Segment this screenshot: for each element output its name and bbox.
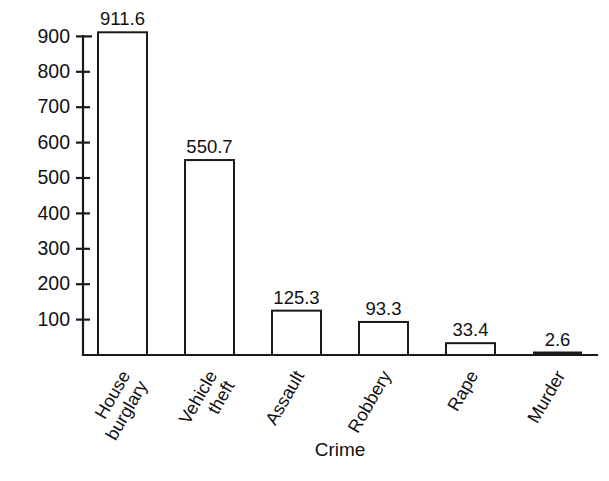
y-axis-tick-label: 100: [37, 308, 70, 330]
chart-canvas: 100200300400500600700800900 911.6550.712…: [0, 0, 609, 481]
x-axis-category-label-line: Murder: [523, 367, 569, 426]
y-axis-tick-label: 300: [37, 237, 70, 259]
bar: [272, 311, 321, 355]
x-axis-title: Crime: [315, 439, 366, 460]
bar-value-label: 33.4: [452, 319, 488, 340]
x-axis-category-label-line: Robbery: [344, 367, 395, 436]
bar-value-label: 911.6: [100, 8, 145, 29]
x-axis-category-label-line: Rape: [443, 367, 482, 414]
x-axis-category-label: Rape: [443, 367, 482, 414]
bars-group: [98, 32, 582, 355]
bar-value-label: 550.7: [186, 136, 232, 157]
x-axis-category-label: Houseburglary: [84, 367, 151, 443]
y-axis-tick-label: 500: [37, 166, 70, 188]
x-axis-category-label: Assault: [261, 367, 308, 428]
bar: [359, 322, 408, 355]
y-axis-tick-label: 200: [37, 272, 70, 294]
bar-value-label: 2.6: [545, 329, 571, 350]
bar-value-label: 125.3: [273, 287, 319, 308]
y-axis-tick-label: 900: [37, 25, 70, 47]
bar: [185, 160, 234, 355]
x-axis-category-labels: HouseburglaryVehicletheftAssaultRobberyR…: [84, 367, 569, 443]
y-axis-tick-label: 700: [37, 95, 70, 117]
bar-value-labels: 911.6550.7125.393.333.42.6: [100, 8, 570, 350]
bar-value-label: 93.3: [365, 298, 401, 319]
y-axis-tick-label: 800: [37, 60, 70, 82]
x-axis-category-label-line: Assault: [261, 367, 308, 428]
bar: [446, 343, 495, 355]
y-axis-tick-label: 400: [37, 202, 70, 224]
y-axis-tick-label: 600: [37, 131, 70, 153]
bar: [98, 32, 147, 355]
y-axis-tick-labels: 100200300400500600700800900: [37, 25, 70, 330]
x-axis-category-label: Vehicletheft: [175, 367, 239, 437]
x-axis-category-label: Robbery: [344, 367, 395, 436]
x-axis-category-label: Murder: [523, 367, 569, 426]
bar-chart: 100200300400500600700800900 911.6550.712…: [0, 0, 609, 481]
